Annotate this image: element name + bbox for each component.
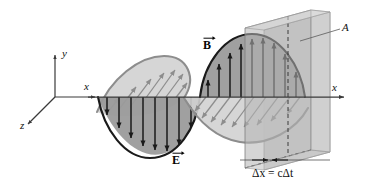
wavefront-plane-front <box>245 10 311 168</box>
triad-x-axis-label: x <box>84 81 89 92</box>
e-field-letter: E <box>172 153 180 167</box>
triad-y-axis-label: y <box>62 48 67 59</box>
distance-equation-label: Δx = cΔt <box>252 168 293 180</box>
area-label: A <box>342 22 349 33</box>
b-vector-arrow-accent <box>203 35 211 40</box>
b-field-vector-label: B <box>203 35 211 51</box>
e-field-vector-label: E <box>172 150 180 166</box>
em-wave-figure: y x z x B E A Δx = cΔt <box>0 0 368 194</box>
em-wave-diagram-canvas <box>0 0 368 194</box>
b-field-letter: B <box>203 38 211 52</box>
triad-z-axis <box>28 97 55 124</box>
triad-z-axis-label: z <box>20 120 24 131</box>
e-vector-arrow-accent <box>172 150 180 155</box>
distance-equation-text: Δx = cΔt <box>252 167 293 179</box>
main-x-axis-label: x <box>332 82 337 93</box>
e-field-lobe-negative <box>98 97 200 158</box>
